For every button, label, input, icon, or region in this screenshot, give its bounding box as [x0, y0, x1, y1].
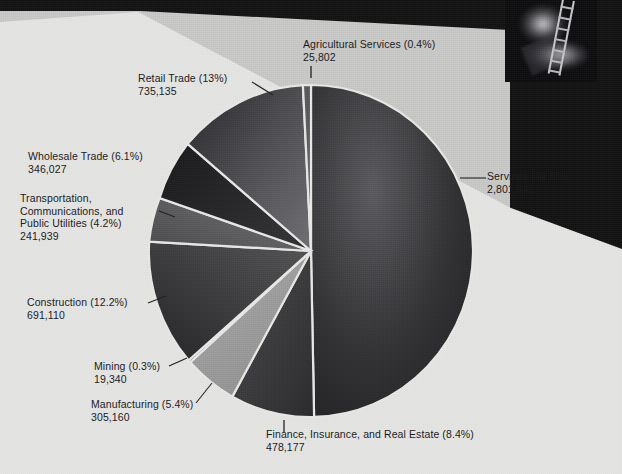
- label-manufacturing-value: 305,160: [91, 411, 193, 424]
- label-services-value: 2,801,641: [487, 183, 569, 196]
- label-transportation-value: 241,939: [20, 230, 123, 243]
- label-retail-title: Retail Trade (13%): [138, 72, 227, 84]
- leader-manufacturing: [196, 383, 212, 403]
- chart-page: Agricultural Services (0.4%) 25,802 Serv…: [0, 0, 622, 474]
- label-finance-title: Finance, Insurance, and Real Estate (8.4…: [266, 428, 474, 440]
- label-transportation: Transportation, Communications, and Publ…: [20, 192, 123, 242]
- label-retail-value: 735,135: [138, 85, 227, 98]
- label-manufacturing-title: Manufacturing (5.4%): [91, 398, 193, 410]
- label-construction: Construction (12.2%) 691,110: [27, 296, 128, 321]
- label-transportation-line2: Communications, and: [20, 205, 123, 218]
- label-transportation-line3: Public Utilities (4.2%): [20, 217, 123, 230]
- leader-mining: [169, 358, 187, 366]
- label-agricultural-value: 25,802: [303, 51, 435, 64]
- pie-slices: [149, 85, 473, 417]
- label-agricultural-services: Agricultural Services (0.4%) 25,802: [303, 38, 435, 63]
- label-mining: Mining (0.3%) 19,340: [94, 360, 160, 385]
- label-wholesale-trade: Wholesale Trade (6.1%) 346,027: [28, 150, 143, 175]
- label-wholesale-title: Wholesale Trade (6.1%): [28, 150, 143, 162]
- label-finance-value: 478,177: [266, 441, 474, 454]
- label-construction-title: Construction (12.2%): [27, 296, 128, 308]
- label-transportation-line1: Transportation,: [20, 192, 123, 205]
- label-mining-title: Mining (0.3%): [94, 360, 160, 372]
- pie-slice-services[interactable]: [311, 85, 473, 417]
- label-agricultural-title: Agricultural Services (0.4%): [303, 38, 435, 50]
- label-services: Services (49.6%) 2,801,641: [487, 170, 569, 195]
- label-finance-insurance-real-estate: Finance, Insurance, and Real Estate (8.4…: [266, 428, 474, 453]
- label-manufacturing: Manufacturing (5.4%) 305,160: [91, 398, 193, 423]
- label-mining-value: 19,340: [94, 373, 160, 386]
- label-services-title: Services (49.6%): [487, 170, 569, 182]
- label-retail-trade: Retail Trade (13%) 735,135: [138, 72, 227, 97]
- label-construction-value: 691,110: [27, 309, 128, 322]
- label-wholesale-value: 346,027: [28, 163, 143, 176]
